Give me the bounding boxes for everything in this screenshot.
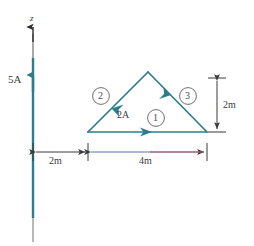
segment-2-label: 2 xyxy=(98,91,103,101)
loop-current-label: 2A xyxy=(117,110,129,120)
z-axis-label: z xyxy=(30,14,34,23)
segment-number-circles xyxy=(93,88,197,127)
segment-1-label: 1 xyxy=(153,113,158,123)
diagram-canvas xyxy=(0,0,254,246)
physics-diagram: z 5A 2A 2 3 1 2m 4m 2m xyxy=(0,0,254,246)
dimension-height-2m-label: 2m xyxy=(223,100,236,110)
dimension-4m-label: 4m xyxy=(139,156,152,166)
segment-3-label: 3 xyxy=(185,91,190,101)
dimension-2m-label: 2m xyxy=(49,156,62,166)
wire-current-label: 5A xyxy=(8,74,21,85)
